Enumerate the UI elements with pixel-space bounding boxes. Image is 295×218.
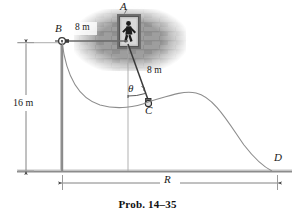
dimension-label-horizontal-8m: 8 m [75, 23, 90, 33]
pulley-icon [59, 38, 69, 45]
label-point-c: C [145, 105, 152, 116]
trajectory-path [148, 92, 272, 171]
label-range-r: R [164, 174, 171, 185]
label-point-d: D [274, 152, 282, 163]
support-pole [61, 41, 62, 171]
label-angle-theta: θ [128, 83, 133, 94]
physics-problem-figure: A B C D θ R 8 m 8 m 16 m Prob. 14–35 [0, 0, 295, 218]
ground-line [17, 170, 292, 172]
label-point-a: A [120, 1, 127, 12]
figure-caption: Prob. 14–35 [0, 198, 295, 210]
dimension-label-rope-8m: 8 m [147, 66, 162, 76]
dimension-label-16m: 16 m [13, 98, 33, 108]
label-point-b: B [55, 23, 62, 34]
